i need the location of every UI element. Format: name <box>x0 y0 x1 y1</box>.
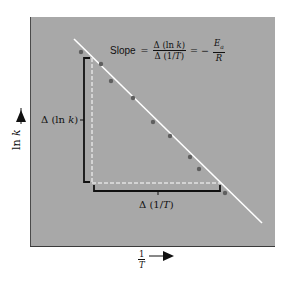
ea-subscript: a <box>220 43 224 50</box>
delta-invT-label: Δ (1/T) <box>139 199 174 210</box>
x-axis-num: 1 <box>138 249 145 260</box>
x-axis-arrow-head-icon <box>163 251 174 261</box>
delta-lnk-post: ) <box>74 114 78 125</box>
x-axis-label: 1 T <box>136 248 147 270</box>
equals-minus: = − <box>190 45 209 56</box>
delta-ratio-denominator: Δ (1/T) <box>155 51 184 61</box>
ea-numerator: Ea <box>213 38 225 53</box>
delta-invT-pre: Δ (1/ <box>139 199 163 210</box>
delta-lnk-pre: Δ (ln <box>41 114 68 125</box>
y-axis-label: ln k <box>10 129 23 150</box>
y-axis-pre: ln <box>10 136 23 150</box>
y-axis-arrow-head-icon <box>16 110 26 122</box>
num-post: ) <box>182 40 185 50</box>
slope-word: Slope <box>110 45 136 56</box>
data-point <box>197 167 201 171</box>
den-post: ) <box>181 51 184 61</box>
equals-sign: = <box>141 45 149 56</box>
x-axis-den: T <box>139 260 145 270</box>
data-point <box>131 96 135 100</box>
one-over-t-fraction: 1 T <box>138 249 145 270</box>
slope-equation: Slope = Δ (ln k) Δ (1/T) = − Ea R <box>110 38 227 63</box>
ea-over-r-fraction: Ea R <box>213 38 225 63</box>
den-pre: Δ (1/ <box>155 51 175 61</box>
delta-invT-post: ) <box>170 199 174 210</box>
data-point <box>168 134 172 138</box>
delta-ratio-numerator: Δ (ln k) <box>153 40 187 51</box>
data-point <box>99 62 103 66</box>
delta-ratio-fraction: Δ (ln k) Δ (1/T) <box>153 40 187 61</box>
r-denominator: R <box>216 53 222 63</box>
delta-invT-var: T <box>163 199 170 210</box>
data-point <box>188 155 192 159</box>
data-point <box>79 50 83 54</box>
data-point <box>223 191 227 195</box>
num-pre: Δ (ln <box>154 40 177 50</box>
delta-lnk-label: Δ (ln k) <box>41 114 78 125</box>
data-point <box>151 120 155 124</box>
data-point <box>109 79 113 83</box>
y-axis-var: k <box>10 129 23 136</box>
